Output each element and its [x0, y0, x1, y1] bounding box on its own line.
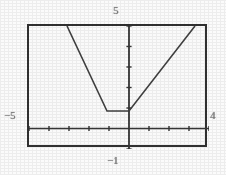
y-axis [126, 26, 131, 149]
window-label-ymax: 5 [113, 5, 118, 16]
calculator-screen: 5 −5 4 −1 [0, 0, 226, 175]
window-label-xmin: −5 [4, 110, 15, 121]
plot-frame [27, 24, 207, 147]
function-curve [67, 26, 195, 111]
plot-canvas [29, 26, 209, 149]
x-axis [29, 126, 209, 131]
window-label-ymin: −1 [107, 155, 118, 166]
window-label-xmax: 4 [210, 110, 215, 121]
